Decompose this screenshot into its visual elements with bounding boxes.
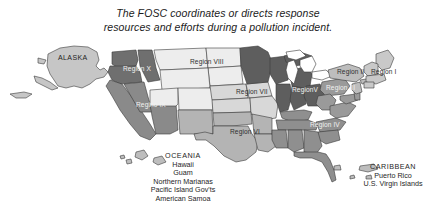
region-v-label: RegionV bbox=[292, 86, 318, 93]
region-vi-label: Region VI bbox=[230, 128, 260, 135]
region-i-label: Region I bbox=[371, 68, 396, 75]
alaska-label: ALASKA bbox=[58, 54, 88, 61]
oceania-legend: OCEANIA Hawaii Guam Northern Marianas Pa… bbox=[119, 152, 247, 204]
region-ii-label: Region II bbox=[337, 68, 364, 75]
region-x-label: Region X bbox=[123, 65, 151, 72]
minor-islands-shape bbox=[334, 165, 341, 170]
region-vii-label: Region VII bbox=[236, 88, 268, 95]
oceania-item-american-samoa: American Samoa bbox=[119, 195, 247, 204]
region-viii-label: Region VIII bbox=[190, 58, 224, 65]
region-iii-label: Region III bbox=[326, 84, 355, 91]
region-ix-label: Regino IX bbox=[136, 101, 166, 108]
caribbean-item-us-virgin-islands: U.S. Virgin Islands bbox=[350, 180, 436, 189]
region-iv-label: Region IV bbox=[310, 121, 340, 128]
map-figure: The FOSC coordinates or directs response… bbox=[0, 0, 436, 223]
caribbean-legend: CARIBBEAN Puerto Rico U.S. Virgin Island… bbox=[350, 163, 436, 189]
